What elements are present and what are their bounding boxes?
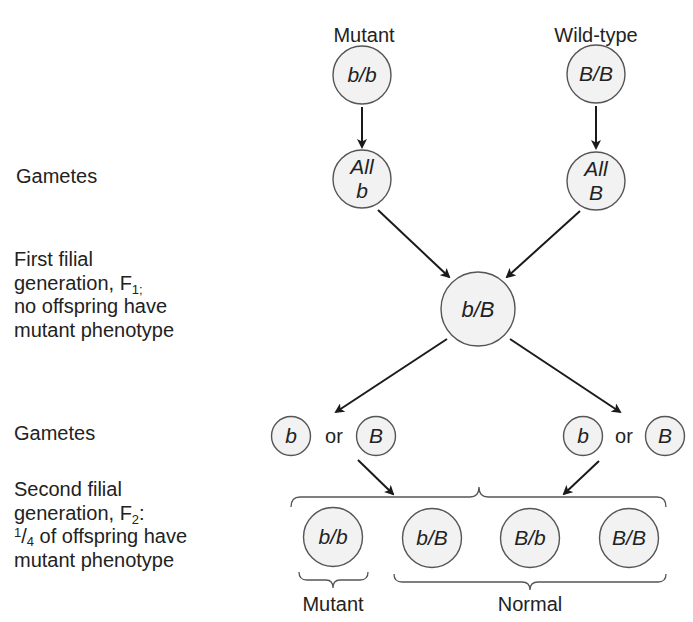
f1-gametes-left: b or B [272, 417, 396, 456]
mutant-parent-node: b/b [333, 46, 391, 104]
f2-offspring-2: b/B [403, 509, 462, 568]
mutant-gametes-node: All b [333, 150, 391, 208]
wild-type-gametes-line-2: B [589, 181, 603, 204]
f2-offspring-3: B/b [501, 509, 560, 568]
normal-group-brace [394, 574, 666, 590]
left-gamete-B: B [369, 424, 383, 447]
left-gamete-b: b [285, 424, 297, 447]
mutant-parent-genotype: b/b [347, 63, 377, 86]
wild-type-gametes-node: All B [567, 152, 625, 210]
arrow-f1-to-right-gametes [510, 339, 620, 412]
f2-offspring-1: b/b [304, 508, 363, 567]
f2-top-brace [291, 487, 666, 507]
f1-gametes-right: b or B [564, 417, 685, 456]
f2-genotype-1: b/b [318, 525, 348, 548]
cross-diagram: Mutant Wild-type b/b B/B All b All B b/B… [0, 0, 693, 622]
right-gamete-b: b [577, 424, 589, 447]
f1-genotype: b/B [461, 297, 494, 322]
left-gamete-or: or [325, 425, 343, 447]
arrow-right-gametes-to-f2 [564, 461, 599, 494]
normal-group-label: Normal [498, 593, 562, 615]
mutant-gametes-line-2: b [356, 179, 368, 202]
arrow-wildtype-gametes-to-f1 [507, 211, 580, 277]
f2-genotype-3: B/b [514, 526, 546, 549]
f2-genotype-4: B/B [612, 526, 646, 549]
wild-type-parent-label: Wild-type [554, 24, 637, 46]
arrow-mutant-gametes-to-f1 [378, 210, 449, 277]
right-gamete-B: B [658, 424, 672, 447]
mutant-parent-label: Mutant [333, 24, 395, 46]
right-gamete-or: or [615, 425, 633, 447]
mutant-group-brace [299, 572, 368, 588]
mutant-gametes-line-1: All [348, 155, 375, 178]
f1-node: b/B [441, 272, 515, 346]
wild-type-parent-genotype: B/B [579, 62, 613, 85]
f2-offspring-4: B/B [600, 509, 659, 568]
f2-genotype-2: b/B [416, 526, 448, 549]
arrow-f1-to-left-gametes [336, 339, 447, 412]
mutant-group-label: Mutant [302, 593, 364, 615]
arrow-left-gametes-to-f2 [358, 460, 393, 494]
wild-type-gametes-line-1: All [582, 157, 609, 180]
wild-type-parent-node: B/B [567, 45, 625, 103]
